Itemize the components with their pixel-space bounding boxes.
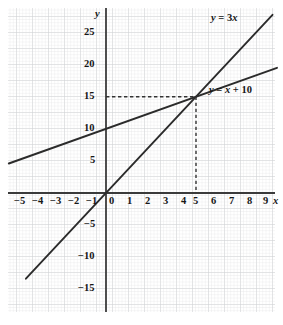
ytick-label-15: 15: [84, 91, 95, 102]
series-label-y-equals-x-plus-10: y = x + 10: [209, 85, 252, 96]
xtick-label--2: −2: [68, 196, 79, 207]
xtick-label-3: 3: [163, 196, 168, 207]
ytick-label-20: 20: [84, 59, 95, 70]
ytick-label-10: 10: [84, 123, 95, 134]
chart-canvas: [0, 0, 283, 325]
xtick-label-4: 4: [181, 196, 186, 207]
ytick-label-25: 25: [84, 27, 95, 38]
x-axis-label: x: [273, 196, 278, 207]
series-label-y-equals-3x: y = 3x: [211, 13, 237, 24]
y-axis-label: y: [95, 9, 100, 20]
xtick-label-0: 0: [109, 196, 114, 207]
ytick-label--15: −15: [78, 283, 94, 294]
xtick-label-6: 6: [211, 196, 216, 207]
series-0-eq: =: [216, 12, 227, 23]
xtick-label-9: 9: [263, 196, 268, 207]
xtick-label-2: 2: [145, 196, 150, 207]
series-0-var: x: [232, 12, 237, 23]
chart-figure: −5 −4 −3 −2 −1 0 1 2 3 4 5 6 7 8 9 x y 2…: [0, 0, 283, 325]
xtick-label-5: 5: [193, 196, 198, 207]
series-1-eq: =: [214, 84, 225, 95]
xtick-label--3: −3: [50, 196, 61, 207]
xtick-label-1: 1: [127, 196, 132, 207]
series-1-const: 10: [241, 84, 252, 95]
xtick-label--1: −1: [86, 196, 97, 207]
xtick-label--5: −5: [14, 196, 25, 207]
ytick-label--10: −10: [78, 251, 94, 262]
ytick-label--5: −5: [84, 219, 95, 230]
xtick-label-7: 7: [229, 196, 234, 207]
xtick-label--4: −4: [32, 196, 43, 207]
series-1-plus: +: [230, 84, 241, 95]
xtick-label-8: 8: [247, 196, 252, 207]
ytick-label-5: 5: [90, 155, 95, 166]
